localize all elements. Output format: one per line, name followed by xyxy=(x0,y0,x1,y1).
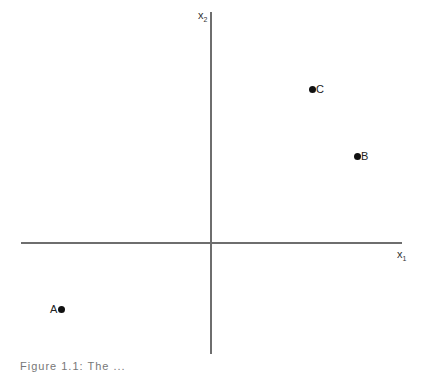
point-c: C xyxy=(309,83,324,95)
x1-axis-label: x1 xyxy=(397,248,406,262)
point-a-label: A xyxy=(50,303,57,315)
point-a-marker xyxy=(58,306,65,313)
figure-caption: Figure 1.1: The ... xyxy=(20,360,126,372)
x2-label-subscript: 2 xyxy=(204,16,208,23)
x2-axis xyxy=(210,12,212,354)
point-c-marker xyxy=(309,86,316,93)
point-a: A xyxy=(50,303,65,315)
point-c-label: C xyxy=(316,83,324,95)
x2-axis-label: x2 xyxy=(198,9,207,23)
x1-label-subscript: 1 xyxy=(403,255,407,262)
x1-axis xyxy=(21,242,402,244)
point-b: B xyxy=(354,150,368,162)
point-b-label: B xyxy=(361,150,368,162)
point-b-marker xyxy=(354,153,361,160)
